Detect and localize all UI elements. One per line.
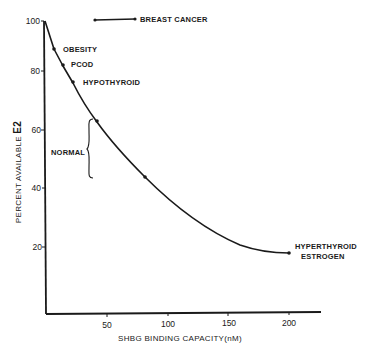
chart-area: 100 80 60 40 20 50 100 150 200 SHBG BIND… bbox=[0, 0, 371, 352]
point-normal-upper bbox=[95, 119, 99, 123]
curve-line bbox=[45, 21, 289, 253]
y-tick-80: 80 bbox=[31, 66, 41, 76]
label-hyperthyroid: HYPERTHYROID bbox=[295, 242, 357, 251]
y-tick-40: 40 bbox=[32, 183, 42, 193]
y-tick-labels: 100 80 60 40 20 bbox=[26, 16, 42, 252]
point-obesity bbox=[52, 47, 56, 51]
x-tick-50: 50 bbox=[102, 320, 112, 330]
x-tick-200: 200 bbox=[282, 318, 296, 328]
x-axis bbox=[46, 312, 321, 314]
x-axis-title: SHBG BINDING CAPACITY(nM) bbox=[118, 334, 242, 343]
y-tick-100: 100 bbox=[26, 16, 40, 26]
point-normal-lower bbox=[143, 175, 147, 179]
breast-cancer-end-point bbox=[133, 17, 136, 20]
y-tick-60: 60 bbox=[32, 125, 42, 135]
y-axis bbox=[44, 21, 46, 314]
x-tick-100: 100 bbox=[161, 319, 175, 329]
label-normal: NORMAL bbox=[51, 148, 85, 157]
label-estrogen: ESTROGEN bbox=[301, 252, 345, 261]
label-breast-cancer: BREAST CANCER bbox=[140, 15, 208, 24]
normal-brace bbox=[87, 119, 93, 178]
x-tick-150: 150 bbox=[222, 318, 236, 328]
y-tick-20: 20 bbox=[33, 242, 43, 252]
label-pcod: PCOD bbox=[71, 60, 94, 69]
point-pcod bbox=[61, 63, 65, 67]
point-hypothyroid bbox=[71, 80, 75, 84]
label-obesity: OBESITY bbox=[63, 45, 97, 54]
y-axis-title: PERCENT AVAILABLE E2 bbox=[12, 121, 23, 223]
breast-cancer-line bbox=[95, 19, 135, 20]
breast-cancer-start-point bbox=[93, 18, 96, 21]
label-hypothyroid: HYPOTHYROID bbox=[83, 78, 141, 87]
point-hyperthyroid bbox=[287, 251, 291, 255]
x-tick-labels: 50 100 150 200 bbox=[102, 318, 296, 330]
